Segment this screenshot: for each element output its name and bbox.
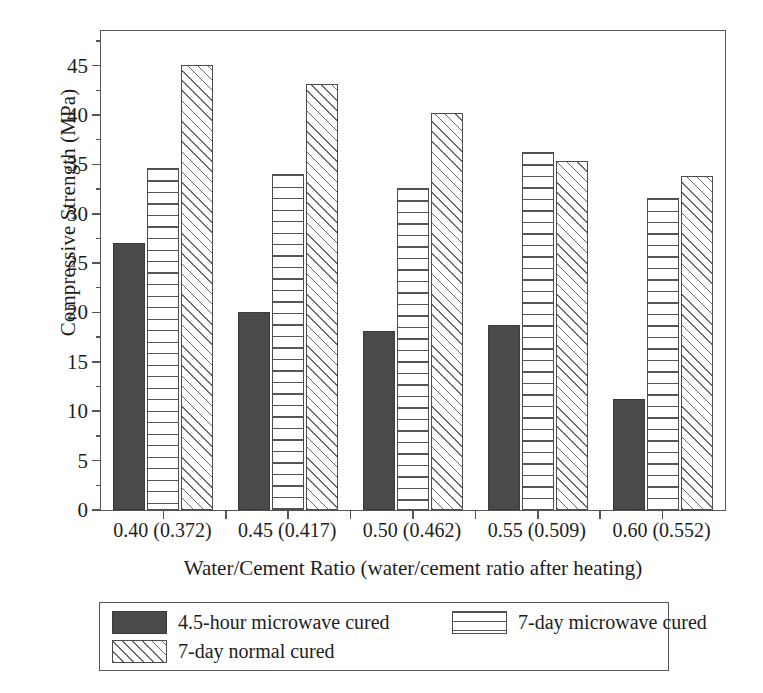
bar-2-0 (363, 331, 395, 510)
y-axis-minor-tick (96, 435, 101, 436)
legend-swatch-solid-dark (112, 611, 167, 634)
y-axis-tick-label: 0 (78, 498, 89, 523)
x-axis-tick (412, 510, 414, 519)
y-axis-tick (92, 262, 101, 264)
x-axis-tick (662, 510, 664, 519)
legend-item-2: 7-day normal cured (112, 637, 335, 665)
x-axis-title: Water/Cement Ratio (water/cement ratio a… (100, 556, 726, 581)
bar-1-2 (306, 84, 338, 510)
bar-4-0 (613, 399, 645, 510)
bar-1-1 (272, 174, 304, 510)
legend-swatch-horizontal-lines (452, 611, 507, 634)
y-axis-minor-tick (96, 386, 101, 387)
x-axis-group-label: 0.40 (0.372) (113, 519, 211, 542)
bar-4-1 (647, 198, 679, 510)
y-axis-tick-label: 10 (67, 399, 88, 424)
y-axis-tick (92, 312, 101, 314)
bar-0-0 (113, 243, 145, 510)
y-axis-tick (92, 114, 101, 116)
chart-legend: 4.5-hour microwave cured 7-day microwave… (99, 602, 669, 671)
y-axis-tick (92, 410, 101, 412)
y-axis-tick-label: 40 (67, 102, 88, 127)
x-axis-tick (287, 510, 289, 519)
y-axis-minor-tick (96, 90, 101, 91)
y-axis-tick-label: 30 (67, 201, 88, 226)
bar-2-1 (397, 188, 429, 510)
bar-0-2 (181, 65, 213, 510)
bars-layer (101, 31, 725, 510)
y-axis-tick-label: 35 (67, 152, 88, 177)
x-axis-group-label: 0.55 (0.509) (488, 519, 586, 542)
y-axis-minor-tick (96, 287, 101, 288)
y-axis-tick-label: 25 (67, 251, 88, 276)
legend-label-1: 7-day microwave cured (518, 611, 707, 634)
legend-label-0: 4.5-hour microwave cured (178, 611, 390, 634)
x-axis-group-label: 0.45 (0.417) (238, 519, 336, 542)
y-axis-tick (92, 213, 101, 215)
y-axis-tick (92, 460, 101, 462)
bar-2-2 (431, 113, 463, 510)
y-axis-minor-tick (96, 188, 101, 189)
legend-swatch-diagonal-hatch (112, 640, 167, 663)
bar-3-0 (488, 325, 520, 510)
y-axis-tick (92, 65, 101, 67)
bar-0-1 (147, 168, 179, 510)
y-axis-minor-tick (96, 485, 101, 486)
x-axis-tick (350, 510, 352, 519)
y-axis-tick (92, 164, 101, 166)
y-axis-minor-tick (96, 40, 101, 41)
y-axis-minor-tick (96, 139, 101, 140)
bar-3-2 (556, 161, 588, 510)
y-axis-tick-label: 45 (67, 53, 88, 78)
x-axis-tick (599, 510, 601, 519)
y-axis-tick-label: 5 (78, 448, 89, 473)
bar-4-2 (681, 176, 713, 510)
x-axis-group-label: 0.60 (0.552) (612, 519, 710, 542)
y-axis-tick (92, 361, 101, 363)
x-axis-group-label: 0.50 (0.462) (363, 519, 461, 542)
y-axis-tick-label: 15 (67, 349, 88, 374)
legend-item-1: 7-day microwave cured (452, 608, 707, 636)
compressive-strength-bar-chart: Compressive Strength (MPa) 0510152025303… (0, 0, 763, 693)
x-axis-tick (163, 510, 165, 519)
legend-label-2: 7-day normal cured (178, 640, 335, 663)
y-axis-minor-tick (96, 336, 101, 337)
x-axis-tick (475, 510, 477, 519)
y-axis-tick (92, 509, 101, 511)
plot-area: 051015202530354045 (100, 30, 726, 511)
x-axis-tick (537, 510, 539, 519)
y-axis-tick-label: 20 (67, 300, 88, 325)
bar-1-0 (238, 312, 270, 511)
y-axis-minor-tick (96, 238, 101, 239)
x-axis-tick (225, 510, 227, 519)
legend-item-0: 4.5-hour microwave cured (112, 608, 390, 636)
bar-3-1 (522, 152, 554, 510)
